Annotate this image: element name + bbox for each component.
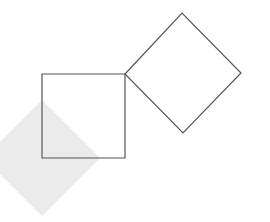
geometry-diagram: [0, 0, 270, 222]
